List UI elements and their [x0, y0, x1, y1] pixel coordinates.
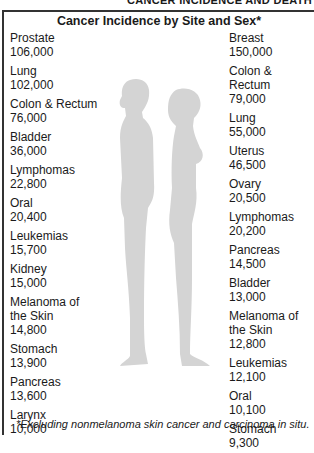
- site-label: Lung: [10, 64, 97, 78]
- site-label: Ovary: [229, 177, 314, 191]
- human-silhouettes-illustration: [108, 78, 218, 378]
- male-item: Melanoma of the Skin14,800: [10, 295, 97, 337]
- site-value: 13,900: [10, 356, 97, 370]
- site-label: Leukemias: [10, 229, 97, 243]
- site-value: 55,000: [229, 125, 314, 139]
- site-label: Colon & Rectum: [229, 64, 314, 92]
- site-label: Bladder: [10, 130, 97, 144]
- site-value: 13,600: [10, 389, 97, 403]
- site-value: 13,000: [229, 290, 314, 304]
- site-label: Pancreas: [229, 243, 314, 257]
- site-label: Uterus: [229, 144, 314, 158]
- site-value: 106,000: [10, 45, 97, 59]
- site-label: Melanoma of the Skin: [229, 309, 314, 337]
- site-label: Lymphomas: [10, 163, 97, 177]
- running-head: CANCER INCIDENCE AND DEATH: [127, 0, 312, 6]
- male-item: Bladder36,000: [10, 130, 97, 158]
- male-column: Prostate106,000 Lung102,000 Colon & Rect…: [10, 31, 97, 441]
- site-value: 102,000: [10, 78, 97, 92]
- site-value: 36,000: [10, 144, 97, 158]
- female-silhouette-icon: [168, 88, 210, 366]
- frame-top-rule: [2, 10, 314, 12]
- male-silhouette-icon: [120, 79, 155, 366]
- site-label: Lung: [229, 111, 314, 125]
- female-item: Melanoma of the Skin12,800: [229, 309, 314, 351]
- female-item: Lymphomas20,200: [229, 210, 314, 238]
- site-label: Colon & Rectum: [10, 97, 97, 111]
- site-value: 20,400: [10, 210, 97, 224]
- site-label: Oral: [10, 196, 97, 210]
- site-value: 15,700: [10, 243, 97, 257]
- footnote: *Excluding nonmelanoma skin cancer and c…: [16, 418, 310, 430]
- site-value: 15,000: [10, 276, 97, 290]
- site-value: 9,300: [229, 436, 314, 450]
- site-label: Oral: [229, 389, 314, 403]
- site-label: Kidney: [10, 262, 97, 276]
- female-item: Bladder13,000: [229, 276, 314, 304]
- site-label: Bladder: [229, 276, 314, 290]
- male-item: Leukemias15,700: [10, 229, 97, 257]
- female-column: Breast150,000 Colon & Rectum79,000 Lung5…: [229, 31, 314, 453]
- site-value: 20,200: [229, 224, 314, 238]
- site-label: Stomach: [10, 342, 97, 356]
- male-item: Kidney15,000: [10, 262, 97, 290]
- female-item: Oral10,100: [229, 389, 314, 417]
- female-item: Pancreas14,500: [229, 243, 314, 271]
- female-item: Colon & Rectum79,000: [229, 64, 314, 106]
- male-item: Oral20,400: [10, 196, 97, 224]
- site-value: 150,000: [229, 45, 314, 59]
- site-value: 12,100: [229, 370, 314, 384]
- site-value: 14,500: [229, 257, 314, 271]
- figure-title: Cancer Incidence by Site and Sex*: [4, 14, 314, 28]
- site-label: Melanoma of the Skin: [10, 295, 97, 323]
- male-item: Prostate106,000: [10, 31, 97, 59]
- female-item: Lung55,000: [229, 111, 314, 139]
- female-item: Breast150,000: [229, 31, 314, 59]
- site-value: 22,800: [10, 177, 97, 191]
- site-value: 14,800: [10, 323, 97, 337]
- female-item: Ovary20,500: [229, 177, 314, 205]
- female-item: Uterus46,500: [229, 144, 314, 172]
- male-item: Colon & Rectum76,000: [10, 97, 97, 125]
- male-item: Lung102,000: [10, 64, 97, 92]
- site-value: 20,500: [229, 191, 314, 205]
- female-item: Leukemias12,100: [229, 356, 314, 384]
- site-value: 12,800: [229, 337, 314, 351]
- male-item: Pancreas13,600: [10, 375, 97, 403]
- male-item: Stomach13,900: [10, 342, 97, 370]
- frame-left-rule: [2, 10, 4, 435]
- site-value: 79,000: [229, 92, 314, 106]
- site-value: 10,100: [229, 403, 314, 417]
- site-label: Lymphomas: [229, 210, 314, 224]
- site-label: Pancreas: [10, 375, 97, 389]
- site-label: Prostate: [10, 31, 97, 45]
- site-label: Breast: [229, 31, 314, 45]
- male-item: Lymphomas22,800: [10, 163, 97, 191]
- site-label: Leukemias: [229, 356, 314, 370]
- site-value: 46,500: [229, 158, 314, 172]
- site-value: 76,000: [10, 111, 97, 125]
